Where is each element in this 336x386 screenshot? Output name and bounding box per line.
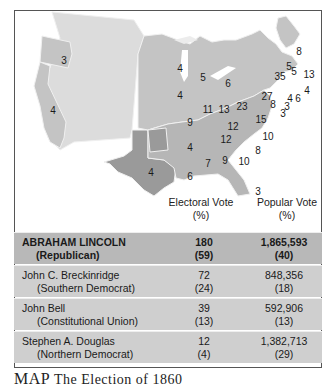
label-texas: 4 xyxy=(148,167,154,178)
label-california: 4 xyxy=(50,105,56,116)
candidate-cell: John C. Breckinridge (Southern Democrat) xyxy=(22,269,135,295)
election-map: 3 4 4 4 5 6 4 11 13 23 9 12 12 15 10 8 4… xyxy=(14,10,322,198)
label-michigan: 6 xyxy=(225,78,231,89)
candidate-name: John Bell xyxy=(22,302,65,314)
candidate-name: Stephen A. Douglas xyxy=(22,335,115,347)
label-wisconsin: 5 xyxy=(200,72,206,83)
candidate-party: (Republican) xyxy=(22,249,126,262)
label-new-york: 35 xyxy=(274,71,286,82)
table-row-lincoln: ABRAHAM LINCOLN (Republican) 180 (59) 1,… xyxy=(14,232,322,264)
map-caption: MAP The Election of 1860 xyxy=(14,370,183,386)
label-kentucky: 12 xyxy=(227,121,239,132)
popular-pct: (18) xyxy=(242,282,326,295)
state-arkansas xyxy=(148,128,168,152)
candidate-party: (Northern Democrat) xyxy=(22,348,133,361)
header-electoral-label: Electoral Vote xyxy=(156,196,246,209)
label-missouri: 9 xyxy=(187,117,193,128)
popular-cell: 1,865,593 (40) xyxy=(242,236,326,262)
popular-cell: 592,906 (13) xyxy=(242,302,326,328)
label-rhode-island: 4 xyxy=(304,85,310,96)
popular-pct: (13) xyxy=(242,315,326,328)
header-popular-label: Popular Vote xyxy=(242,196,332,209)
candidate-cell: ABRAHAM LINCOLN (Republican) xyxy=(22,236,126,262)
electoral-pct: (24) xyxy=(164,282,244,295)
label-new-hampshire: 5 xyxy=(291,66,297,77)
candidate-name: ABRAHAM LINCOLN xyxy=(22,236,126,248)
label-massachusetts: 13 xyxy=(303,69,315,80)
candidate-cell: John Bell (Constitutional Union) xyxy=(22,302,138,328)
popular-votes: 592,906 xyxy=(242,302,326,315)
electoral-cell: 39 (13) xyxy=(164,302,244,328)
popular-votes: 1,865,593 xyxy=(242,236,326,249)
label-illinois: 11 xyxy=(203,104,214,115)
caption-prefix: MAP xyxy=(14,370,50,386)
electoral-pct: (4) xyxy=(164,348,244,361)
label-alabama: 9 xyxy=(222,155,228,166)
label-arkansas: 4 xyxy=(187,142,193,153)
header-popular: Popular Vote (%) xyxy=(242,196,332,222)
electoral-votes: 72 xyxy=(164,269,244,282)
label-louisiana: 6 xyxy=(187,171,193,182)
electoral-votes: 180 xyxy=(164,236,244,249)
caption-text: The Election of 1860 xyxy=(54,372,183,386)
table-row-breckinridge: John C. Breckinridge (Southern Democrat)… xyxy=(14,265,322,297)
candidate-party: (Constitutional Union) xyxy=(22,315,138,328)
popular-cell: 1,382,713 (29) xyxy=(242,335,326,361)
label-ohio: 23 xyxy=(236,101,248,112)
label-north-carolina: 10 xyxy=(262,131,274,142)
popular-pct: (29) xyxy=(242,348,326,361)
electoral-cell: 12 (4) xyxy=(164,335,244,361)
label-oregon: 3 xyxy=(61,55,67,66)
candidate-cell: Stephen A. Douglas (Northern Democrat) xyxy=(22,335,133,361)
header-popular-unit: (%) xyxy=(242,209,332,222)
header-electoral: Electoral Vote (%) xyxy=(156,196,246,222)
label-maine: 8 xyxy=(296,46,302,57)
popular-pct: (40) xyxy=(242,249,326,262)
electoral-pct: (13) xyxy=(164,315,244,328)
label-mississippi: 7 xyxy=(205,158,211,169)
candidate-party: (Southern Democrat) xyxy=(22,282,135,295)
table-row-bell: John Bell (Constitutional Union) 39 (13)… xyxy=(14,298,322,330)
label-delaware-2: 3 xyxy=(280,108,286,119)
us-map-svg: 3 4 4 4 5 6 4 11 13 23 9 12 12 15 10 8 4… xyxy=(14,10,322,198)
candidate-name: John C. Breckinridge xyxy=(22,269,119,281)
label-virginia: 15 xyxy=(255,114,267,125)
label-iowa: 4 xyxy=(177,90,183,101)
popular-votes: 848,356 xyxy=(242,269,326,282)
electoral-pct: (59) xyxy=(164,249,244,262)
popular-cell: 848,356 (18) xyxy=(242,269,326,295)
label-georgia: 10 xyxy=(238,156,250,167)
electoral-cell: 72 (24) xyxy=(164,269,244,295)
electoral-votes: 39 xyxy=(164,302,244,315)
table-header: Electoral Vote (%) Popular Vote (%) xyxy=(14,196,322,230)
table-row-douglas: Stephen A. Douglas (Northern Democrat) 1… xyxy=(14,331,322,363)
electoral-votes: 12 xyxy=(164,335,244,348)
electoral-cell: 180 (59) xyxy=(164,236,244,262)
label-south-carolina: 8 xyxy=(255,145,261,156)
label-maryland: 8 xyxy=(270,99,276,110)
label-indiana: 13 xyxy=(218,104,230,115)
popular-votes: 1,382,713 xyxy=(242,335,326,348)
state-maine xyxy=(276,16,300,48)
label-tennessee: 12 xyxy=(220,134,232,145)
label-connecticut: 6 xyxy=(295,93,301,104)
label-minnesota: 4 xyxy=(177,63,183,74)
header-electoral-unit: (%) xyxy=(156,209,246,222)
